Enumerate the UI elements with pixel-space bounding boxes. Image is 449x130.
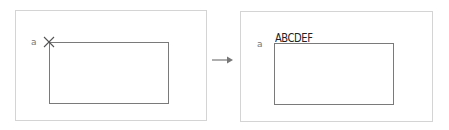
arrow-right-icon xyxy=(212,55,234,65)
inserted-text: ABCDEF xyxy=(275,31,312,44)
after-rectangle xyxy=(274,43,394,105)
before-rectangle xyxy=(49,42,169,104)
x-mark-icon xyxy=(43,36,55,48)
before-point-label: a xyxy=(31,37,37,47)
after-point-label: a xyxy=(257,39,263,49)
